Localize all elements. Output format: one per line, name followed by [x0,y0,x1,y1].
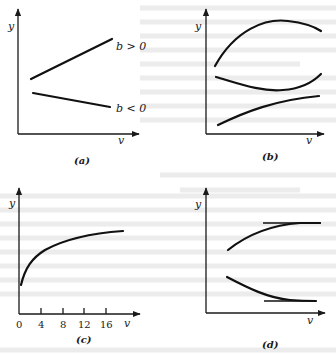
y-label-d: y [194,198,202,211]
tick-label-0: 0 [16,319,22,330]
y-label-a: y [7,20,15,33]
caption-c: (c) [76,334,92,345]
line-b-negative [33,93,110,107]
caption-a: (a) [74,155,90,166]
v-label-c: v [124,317,131,330]
y-label-c: y [8,197,16,210]
v-label-b: v [306,134,313,147]
figure-four-panel-curves: y v (a) b > 0 b < 0 y v (b) 0 4 8 12 16 … [0,0,336,358]
tick-label-8: 8 [60,319,66,330]
line-b-positive [31,39,112,79]
tick-label-16: 16 [100,319,113,330]
caption-d: (d) [262,339,279,350]
tick-label-4: 4 [38,319,44,330]
tick-label-12: 12 [78,319,91,330]
caption-b: (b) [262,151,279,162]
y-label-b: y [194,20,202,33]
v-label-a: v [118,134,125,147]
v-label-d: v [307,314,314,327]
concave-down-curve [215,21,321,66]
panel-a: y v (a) b > 0 b < 0 [7,9,146,166]
label-b-negative: b < 0 [116,102,146,115]
label-b-positive: b > 0 [116,40,146,53]
panel-b: y v (b) [194,9,324,162]
